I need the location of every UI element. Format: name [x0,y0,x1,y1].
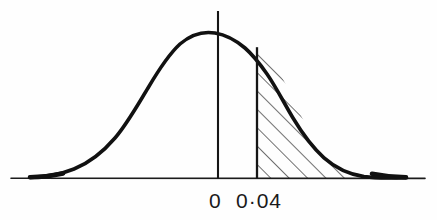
distribution-plot [0,0,437,220]
tail-hatch-fill [250,40,410,180]
x-tick-label-zero: 0 [209,190,222,211]
right-tail-shaded-area [250,40,410,180]
x-tick-label-cut-point: 0·04 [236,190,282,211]
distribution-figure: 0 0·04 [0,0,437,220]
